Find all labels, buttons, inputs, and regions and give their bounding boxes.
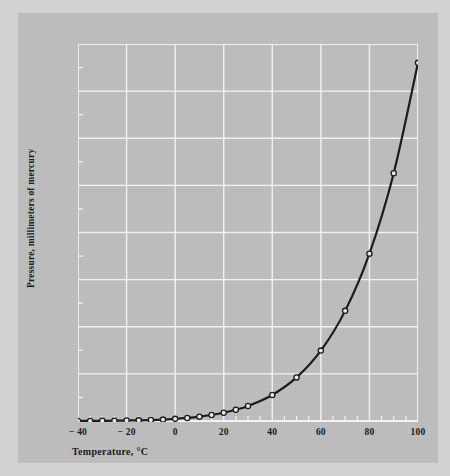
data-point-marker	[185, 415, 190, 420]
data-point-marker	[367, 251, 372, 256]
x-tick-label: 20	[219, 427, 229, 437]
data-point-marker	[124, 418, 129, 422]
y-axis-title: Pressure, millimeters of mercury	[26, 149, 36, 288]
data-point-marker	[173, 416, 178, 421]
x-tick-label: − 40	[69, 427, 87, 437]
chart-svg	[78, 44, 418, 422]
data-point-marker	[209, 412, 214, 417]
x-axis-title: Temperature, °C	[72, 446, 148, 457]
data-point-marker	[233, 407, 238, 412]
data-point-marker	[197, 414, 202, 419]
figure-canvas: 0100200300400500600700800 − 40− 20020406…	[0, 0, 450, 476]
data-point-marker	[415, 60, 418, 65]
data-line-vapor-pressure	[78, 63, 418, 421]
data-point-marker	[88, 418, 93, 422]
x-tick-label: 80	[364, 427, 374, 437]
data-point-marker	[112, 418, 117, 422]
data-point-marker	[221, 410, 226, 415]
x-tick-label: 60	[316, 427, 326, 437]
x-tick-label: 40	[267, 427, 277, 437]
data-point-marker	[318, 348, 323, 353]
data-point-marker	[391, 171, 396, 176]
data-point-marker	[136, 418, 141, 422]
plot-area	[78, 44, 418, 421]
data-point-marker	[294, 375, 299, 380]
data-point-marker	[78, 418, 81, 422]
data-point-marker	[148, 417, 153, 422]
x-tick-label: 0	[173, 427, 178, 437]
data-point-marker	[245, 403, 250, 408]
data-point-marker	[100, 418, 105, 422]
data-point-marker	[343, 308, 348, 313]
data-point-marker	[160, 417, 165, 422]
data-point-marker	[270, 392, 275, 397]
x-tick-label: 100	[411, 427, 426, 437]
x-tick-label: − 20	[118, 427, 136, 437]
